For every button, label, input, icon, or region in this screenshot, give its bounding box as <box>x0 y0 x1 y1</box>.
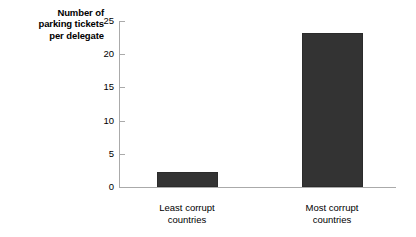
x-label-most-corrupt-line-1: Most corrupt <box>277 202 387 214</box>
bar-most-corrupt <box>302 33 363 187</box>
y-axis-line <box>119 21 120 188</box>
y-tick-label-5: 5 <box>88 149 114 159</box>
y-axis-title-line-3: per delegate <box>14 30 104 41</box>
y-tick-label-20: 20 <box>88 49 114 59</box>
y-tick-mark-20 <box>120 54 125 55</box>
bar-least-corrupt <box>157 172 218 187</box>
y-tick-mark-25 <box>120 21 125 22</box>
y-tick-label-10: 10 <box>88 116 114 126</box>
x-label-least-corrupt-line-2: countries <box>132 214 242 226</box>
x-label-most-corrupt-line-2: countries <box>277 214 387 226</box>
bar-chart: Number of parking tickets per delegate 2… <box>0 0 416 237</box>
y-tick-label-15: 15 <box>88 82 114 92</box>
x-axis-line <box>119 187 396 188</box>
y-tick-mark-10 <box>120 121 125 122</box>
y-tick-label-0: 0 <box>88 182 114 192</box>
x-label-least-corrupt-line-1: Least corrupt <box>132 202 242 214</box>
y-tick-mark-0 <box>120 187 125 188</box>
y-tick-label-25: 25 <box>88 16 114 26</box>
x-label-least-corrupt: Least corrupt countries <box>132 202 242 225</box>
y-tick-mark-5 <box>120 154 125 155</box>
y-tick-mark-15 <box>120 87 125 88</box>
x-label-most-corrupt: Most corrupt countries <box>277 202 387 225</box>
